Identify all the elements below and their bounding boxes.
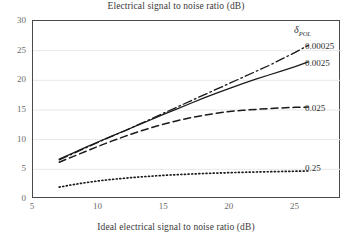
y-tick-25: 25 xyxy=(2,45,26,55)
y-tick-5: 5 xyxy=(2,163,26,173)
series-label-0.00025: 0.00025 xyxy=(305,41,334,51)
plot-svg xyxy=(33,21,341,199)
series-label-0.25: 0.25 xyxy=(305,163,321,173)
x-tick-15: 15 xyxy=(148,201,178,211)
delta-subscript: POL xyxy=(299,30,311,37)
x-axis-title: Ideal electrical signal to noise ratio (… xyxy=(0,222,352,232)
chart-container: Electrical signal to noise ratio (dB) 30… xyxy=(0,0,352,242)
y-tick-10: 10 xyxy=(2,134,26,144)
chart-title: Electrical signal to noise ratio (dB) xyxy=(0,1,352,11)
y-tick-30: 30 xyxy=(2,15,26,25)
y-tick-20: 20 xyxy=(2,74,26,84)
series-label-0.0025: 0.0025 xyxy=(305,58,330,68)
y-tick-15: 15 xyxy=(2,104,26,114)
series-line-0.25 xyxy=(59,171,308,187)
x-tick-5: 5 xyxy=(17,201,47,211)
x-tick-25: 25 xyxy=(279,201,309,211)
series-label-0.025: 0.025 xyxy=(305,103,325,113)
legend-title-delta: δPOL xyxy=(294,24,311,37)
plot-area xyxy=(32,20,340,198)
x-tick-20: 20 xyxy=(214,201,244,211)
series-line-0.025 xyxy=(59,107,308,162)
x-tick-10: 10 xyxy=(83,201,113,211)
